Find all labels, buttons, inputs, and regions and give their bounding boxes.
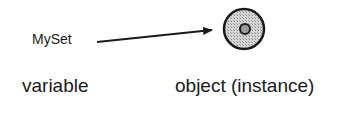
variable-caption: variable bbox=[22, 75, 89, 97]
variable-name-label: MySet bbox=[32, 31, 72, 47]
diagram-graphics bbox=[0, 0, 362, 119]
object-caption: object (instance) bbox=[175, 75, 314, 97]
object-circle-icon bbox=[224, 9, 264, 49]
diagram-canvas: MySet variable object (instance) bbox=[0, 0, 362, 119]
reference-arrow bbox=[97, 30, 212, 42]
